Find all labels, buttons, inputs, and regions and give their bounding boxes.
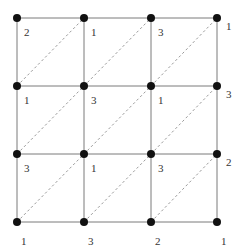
node-dot [147, 82, 155, 90]
node-dot [147, 150, 155, 158]
node-label: 1 [21, 235, 27, 247]
node-dot [13, 82, 21, 90]
node-label: 1 [221, 235, 227, 247]
node-label: 1 [226, 20, 232, 32]
node-dot [213, 218, 221, 226]
node-label: 3 [24, 162, 30, 174]
node-dot [147, 14, 155, 22]
node-label: 1 [91, 26, 97, 38]
node-dot [213, 14, 221, 22]
node-dot [80, 218, 88, 226]
grid-diagram: 2131131331321321 [0, 0, 244, 252]
node-labels: 2131131331321321 [21, 20, 232, 247]
node-dot [147, 218, 155, 226]
node-dot [213, 82, 221, 90]
node-label: 2 [24, 26, 30, 38]
node-label: 2 [155, 235, 161, 247]
node-dot [80, 150, 88, 158]
node-dot [13, 218, 21, 226]
node-label: 3 [91, 94, 97, 106]
node-label: 1 [24, 94, 30, 106]
node-label: 1 [91, 162, 97, 174]
node-label: 2 [226, 156, 232, 168]
node-dot [213, 150, 221, 158]
node-dot [80, 14, 88, 22]
node-label: 3 [88, 235, 94, 247]
node-dot [13, 150, 21, 158]
node-dot [13, 14, 21, 22]
node-label: 3 [158, 162, 164, 174]
node-label: 1 [158, 94, 164, 106]
node-label: 3 [226, 88, 232, 100]
node-dot [80, 82, 88, 90]
diagonal-lines [17, 18, 217, 222]
node-label: 3 [158, 26, 164, 38]
